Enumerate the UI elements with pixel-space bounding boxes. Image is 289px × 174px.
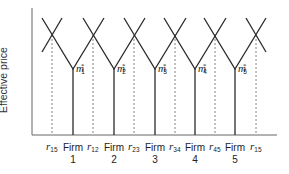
boundary-label-r15-left: r15 [46, 141, 58, 154]
firm-label-1: Firm1 [61, 142, 85, 166]
boundary-label-r45: r45 [209, 141, 221, 154]
boundary-label-r12: r12 [87, 141, 99, 154]
markup-label-5: m*5 [238, 63, 247, 76]
boundary-label-r15-right: r15 [250, 141, 262, 154]
diagram-root: Effective price m*1 m*2 m*3 m*4 m*5 r15 … [0, 0, 289, 174]
markup-label-2: m*2 [117, 63, 126, 76]
firm-label-4: Firm4 [183, 142, 207, 166]
firm-label-3: Firm3 [143, 142, 167, 166]
firm-label-5: Firm5 [223, 142, 247, 166]
boundary-label-r23: r23 [128, 141, 140, 154]
firm-label-2: Firm2 [102, 142, 126, 166]
firm-location-lines [73, 69, 235, 135]
markup-label-1: m*1 [76, 63, 85, 76]
markup-label-3: m*3 [158, 63, 167, 76]
markup-label-4: m*4 [198, 63, 207, 76]
boundary-label-r34: r34 [169, 141, 181, 154]
boundary-dashed-lines [52, 35, 256, 135]
